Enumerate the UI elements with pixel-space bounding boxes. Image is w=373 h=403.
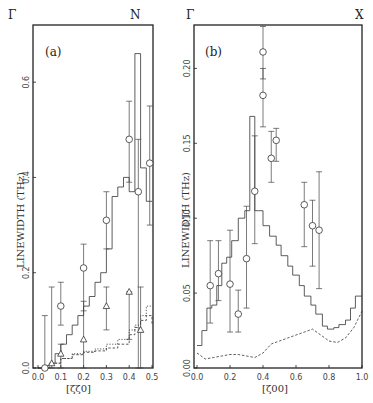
- panel-a-label: (a): [45, 45, 62, 59]
- circle-marker: [227, 281, 234, 288]
- circle-marker: [146, 160, 153, 167]
- circle-marker: [215, 270, 222, 277]
- histogram-line: [197, 116, 362, 345]
- x-tick-label: 0.4: [123, 373, 136, 382]
- x-tick-label: 0.2: [77, 373, 90, 382]
- circle-marker: [316, 227, 323, 234]
- circle-marker: [260, 49, 267, 56]
- circle-marker: [309, 222, 316, 229]
- circle-marker: [207, 282, 214, 289]
- circle-marker: [235, 311, 242, 318]
- panel-b-label: (b): [205, 45, 222, 59]
- panel-b-corner-right: X: [355, 8, 364, 22]
- x-tick-label: 0.0: [191, 373, 204, 382]
- x-tick-label: 0.0: [32, 373, 45, 382]
- circle-marker: [58, 303, 65, 310]
- x-tick-label: 0.4: [257, 373, 270, 382]
- triangle-marker: [80, 336, 86, 342]
- y-tick-label: 0.15: [183, 134, 192, 152]
- circle-marker: [80, 265, 87, 272]
- panel-b-frame: [194, 25, 362, 368]
- circle-marker: [301, 201, 308, 208]
- linewidth-dispersion-figure: Γ N (a) LINEWIDTH (THz) [ζζ0] 0.00.10.20…: [0, 0, 373, 403]
- circle-marker: [42, 365, 49, 372]
- panel-a-corner-left: Γ: [8, 8, 16, 22]
- circle-marker: [268, 155, 275, 162]
- y-tick-label: 0.20: [183, 60, 192, 78]
- circle-marker: [273, 137, 280, 144]
- circle-marker: [260, 92, 267, 99]
- x-tick-label: 0.1: [54, 373, 67, 382]
- circle-marker: [135, 188, 142, 195]
- circle-marker: [251, 188, 258, 195]
- histogram-line: [197, 311, 362, 359]
- circle-marker: [243, 255, 250, 262]
- y-tick-label: 0.4: [22, 171, 31, 184]
- panel-b-data: [197, 26, 362, 359]
- triangle-marker: [126, 288, 132, 294]
- panel-b: Γ X (b) LINEWIDTH (THz) [ζ00] 0.00.20.40…: [180, 8, 368, 394]
- x-tick-label: 0.2: [224, 373, 237, 382]
- y-tick-label: 0.6: [22, 76, 31, 89]
- circle-marker: [126, 136, 133, 143]
- triangle-marker: [103, 303, 109, 309]
- x-tick-label: 0.3: [100, 373, 113, 382]
- y-tick-label: 0.00: [183, 359, 192, 377]
- panel-a: Γ N (a) LINEWIDTH (THz) [ζζ0] 0.00.10.20…: [8, 8, 158, 394]
- y-tick-label: 0.0: [22, 362, 31, 375]
- circle-marker: [103, 217, 110, 224]
- panel-a-data: [38, 54, 153, 372]
- panel-a-ticks: 0.00.10.20.30.40.50.00.20.40.6: [22, 76, 158, 382]
- x-tick-label: 1.0: [356, 373, 369, 382]
- panel-b-ticks: 0.00.20.40.60.81.00.000.050.100.150.20: [183, 60, 368, 382]
- panel-a-ylabel: LINEWIDTH (THz): [15, 172, 26, 268]
- panel-a-xlabel: [ζζ0]: [66, 383, 91, 394]
- x-tick-label: 0.6: [290, 373, 303, 382]
- panel-a-corner-right: N: [130, 8, 141, 22]
- x-tick-label: 0.5: [146, 373, 159, 382]
- y-tick-label: 0.2: [22, 266, 31, 279]
- y-tick-label: 0.05: [183, 284, 192, 302]
- histogram-line: [38, 54, 152, 368]
- y-tick-label: 0.10: [183, 209, 192, 227]
- x-tick-label: 0.8: [323, 373, 336, 382]
- panel-b-corner-left: Γ: [186, 8, 194, 22]
- panel-b-xlabel: [ζ00]: [262, 383, 288, 394]
